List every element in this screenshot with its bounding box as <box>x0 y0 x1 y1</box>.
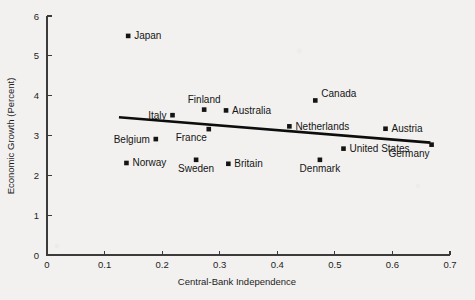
x-tick-label: 0.4 <box>271 259 284 270</box>
y-tick-label: 2 <box>34 170 39 181</box>
point-marker-united-states <box>341 146 346 151</box>
plot-canvas: 00.10.20.30.40.50.60.70123456 JapanCanad… <box>0 0 475 300</box>
point-label-austria: Austria <box>392 123 424 134</box>
point-label-sweden: Sweden <box>178 163 214 174</box>
point-marker-germany <box>429 142 434 147</box>
point-label-united-states: United States <box>349 143 409 154</box>
point-marker-finland <box>202 107 207 112</box>
x-tick-label: 0.3 <box>213 259 226 270</box>
data-point: Netherlands <box>287 121 349 132</box>
point-marker-netherlands <box>287 124 292 129</box>
y-axis-title: Economic Growth (Percent) <box>5 78 16 195</box>
point-label-australia: Australia <box>232 105 271 116</box>
point-marker-sweden <box>194 157 199 162</box>
point-label-denmark: Denmark <box>300 163 342 174</box>
point-label-france: France <box>176 132 208 143</box>
x-tick-label: 0.2 <box>156 259 169 270</box>
x-axis-title: Central-Bank Independence <box>178 276 296 287</box>
x-tick-label: 0.1 <box>98 259 111 270</box>
y-tick-label: 4 <box>34 90 39 101</box>
point-label-norway: Norway <box>132 157 166 168</box>
point-label-canada: Canada <box>321 88 356 99</box>
point-marker-denmark <box>318 157 323 162</box>
point-label-italy: Italy <box>148 110 166 121</box>
point-marker-belgium <box>154 137 159 142</box>
y-tick-label: 6 <box>34 11 39 22</box>
data-point: United States <box>341 143 409 154</box>
point-label-belgium: Belgium <box>114 134 150 145</box>
y-tick-label: 3 <box>34 130 39 141</box>
y-tick-label: 5 <box>34 50 39 61</box>
y-tick-label: 1 <box>34 210 39 221</box>
point-label-britain: Britain <box>234 158 262 169</box>
point-label-netherlands: Netherlands <box>295 121 349 132</box>
point-marker-japan <box>126 34 131 39</box>
x-tick-label: 0.7 <box>443 259 456 270</box>
y-tick-label: 0 <box>34 250 39 261</box>
point-marker-austria <box>383 126 388 131</box>
point-marker-norway <box>124 161 129 166</box>
point-label-japan: Japan <box>134 30 161 41</box>
x-tick-label: 0.6 <box>386 259 399 270</box>
point-marker-canada <box>313 98 318 103</box>
point-marker-australia <box>224 108 229 113</box>
x-tick-label: 0 <box>44 259 49 270</box>
point-label-finland: Finland <box>188 94 221 105</box>
point-marker-france <box>206 127 211 132</box>
point-marker-italy <box>170 113 175 118</box>
x-tick-label: 0.5 <box>328 259 341 270</box>
scatter-chart-figure: 00.10.20.30.40.50.60.70123456 JapanCanad… <box>0 0 475 300</box>
point-marker-britain <box>226 161 231 166</box>
